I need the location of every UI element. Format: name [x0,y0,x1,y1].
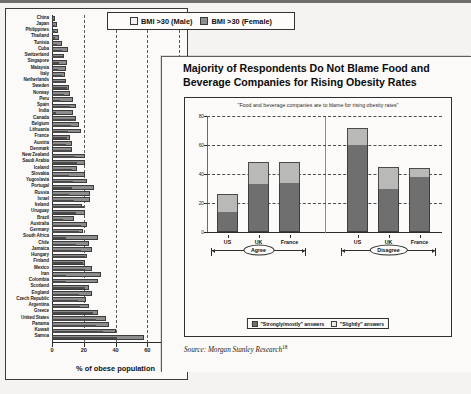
legend-item-male: BMI >30 (Male) [130,17,193,26]
country-label: Slovakia [31,172,49,177]
legend-label-slightly: "Slightly" answers [340,321,384,327]
chart-row [52,129,179,134]
x-tick-label: 0 [50,347,53,353]
country-label: Iceland [34,166,49,171]
country-label: Chile [38,241,49,246]
country-label: India [39,109,49,114]
y-tick [204,232,207,233]
chart-row [52,47,179,52]
bar-male [52,19,54,21]
chart-row [52,335,179,340]
chart-row [52,154,179,159]
bar-male [52,212,76,214]
bar-male [52,169,72,171]
chart-row [52,116,179,121]
country-label: Mexico [34,266,49,271]
bar-male [52,137,67,139]
bar-male [52,81,65,83]
obesity-chart-legend: BMI >30 (Male) BMI >30 (Female) [107,12,295,30]
country-label: Denmark [30,147,49,152]
bar-male [52,44,57,46]
country-label: Peru [39,97,49,102]
bar-male [52,312,93,314]
country-label: Sweden [32,84,49,89]
chart-row [52,285,179,290]
legend-swatch-slightly-icon [331,321,337,327]
bar-male [52,275,66,277]
chart-row [52,272,179,277]
chart-row [52,191,179,196]
bar-male [52,56,63,58]
country-label: Israel [38,197,49,202]
gridline [207,116,442,117]
country-label: Netherlands [24,78,49,83]
bar-male [52,162,77,164]
chart-row [52,141,179,146]
category-label: US [224,239,231,245]
bar-male [52,69,58,71]
country-label: Czech Republic [16,297,49,302]
chart-row [52,322,179,327]
country-label: Philippines [26,28,49,33]
chart-row [52,297,179,302]
chart-row [52,279,179,284]
chart-row [52,135,179,140]
country-label: Germany [30,228,49,233]
country-label: Saudi Arabia [22,159,49,164]
slide-title: Majority of Respondents Do Not Blame Foo… [183,62,455,89]
arrow-left-icon [342,249,345,253]
legend-label-male: BMI >30 (Male) [141,17,193,26]
y-tick [204,174,207,175]
chart-row [52,41,179,46]
bar-male [52,87,67,89]
x-tick-label: 20 [81,347,87,353]
chart-row [52,210,179,215]
bar-male [52,94,64,96]
chart-row [52,91,179,96]
category-tick [389,235,390,238]
legend-label-strongly: "Strongly/mostly" answers [260,321,324,327]
bar-segment-strongly [217,212,238,232]
stacked-bar [347,128,368,232]
chart-row [52,79,179,84]
bar-segment-slightly [248,162,269,184]
category-tick [290,235,291,238]
bar-segment-slightly [217,194,238,211]
bar-male [52,194,69,196]
y-tick [204,145,207,146]
bar-male [52,200,74,202]
bar-male [52,331,103,333]
chart-row [52,291,179,296]
bar-male [52,75,62,77]
bar-male [52,31,55,33]
chart-row [52,329,179,334]
blame-survey-plot-area: 020406080 [207,116,442,233]
group-label-agree: Agree [243,245,274,256]
country-label: England [32,291,49,296]
bar-male [52,25,55,27]
country-label: Thailand [31,34,49,39]
bar-male [52,150,71,152]
chart-row [52,122,179,127]
country-label: Italy [40,72,49,77]
source-footnote-marker: 18 [282,344,287,350]
category-tick [259,235,260,238]
country-label: Singapore [27,59,49,64]
gridline [207,145,442,146]
bar-male [52,106,70,108]
chart-row [52,60,179,65]
country-label: Tunisia [34,41,49,46]
country-label: Iran [41,272,49,277]
x-tick-label: 40 [112,347,118,353]
category-tick [358,235,359,238]
bar-male [52,325,96,327]
bar-male [52,181,73,183]
y-tick [204,203,207,204]
country-label: France [35,134,49,139]
country-label: Jamaica [32,247,49,252]
bar-male [52,131,68,133]
bar-male [52,175,69,177]
bar-male [52,187,72,189]
chart-row [52,254,179,259]
category-label: France [411,239,428,245]
